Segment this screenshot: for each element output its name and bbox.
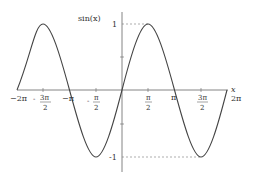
x-tick-neg3pi2-num: 3π [40, 94, 49, 102]
x-tick-neg3pi2-minus: - [33, 95, 36, 103]
x-tick-2pi: 2π [231, 94, 241, 103]
x-tick-negpi: −π [62, 94, 74, 103]
x-tick-pi: π [171, 93, 176, 102]
y-tick-neg1: -1 [109, 153, 117, 162]
x-tick-negpi2-num: π [94, 94, 99, 102]
sine-chart: sin(x) x 1 -1 −2π - 3π 2 −π - π 2 π 2 π … [0, 0, 254, 177]
x-axis-label: x [231, 85, 236, 94]
x-tick-3pi2-den: 2 [200, 104, 204, 112]
x-tick-3pi2-num: 3π [198, 94, 207, 102]
x-tick-pi2-den: 2 [146, 104, 150, 112]
x-tick-neg3pi2-den: 2 [43, 104, 47, 112]
y-axis-label: sin(x) [78, 14, 101, 23]
x-tick-neg2pi: −2π [10, 94, 27, 103]
x-tick-negpi2-minus: - [87, 97, 90, 105]
y-tick-1: 1 [112, 20, 117, 29]
x-tick-negpi2-den: 2 [94, 104, 98, 112]
x-tick-pi2-num: π [146, 94, 151, 102]
